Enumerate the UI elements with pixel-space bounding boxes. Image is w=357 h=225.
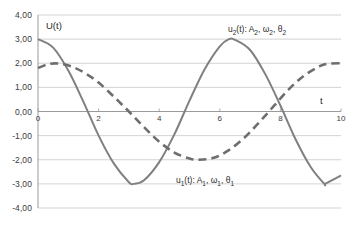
y-tick-label: 0,00 bbox=[0, 107, 32, 117]
y-tick-label: -1,00 bbox=[0, 131, 32, 141]
chart-container: 4,003,002,001,000,00-1,00-2,00-3,00-4,00… bbox=[0, 0, 357, 225]
y-tick-label: 3,00 bbox=[0, 34, 32, 44]
x-tick-label: 2 bbox=[90, 114, 108, 123]
x-axis-title: t bbox=[320, 95, 323, 106]
y-tick-label: -4,00 bbox=[0, 203, 32, 213]
series1-theta-sub: 1 bbox=[230, 180, 234, 187]
series-label-u2: u2(t): A2, ω2, θ2 bbox=[228, 24, 286, 36]
y-tick-label: 2,00 bbox=[0, 58, 32, 68]
y-tick-label: 1,00 bbox=[0, 82, 32, 92]
plot-svg bbox=[0, 0, 357, 225]
series-label-u1: u1(t): A1, ω1, θ1 bbox=[176, 175, 234, 187]
series1-of-t: (t): A bbox=[184, 175, 202, 185]
y-tick-label: -2,00 bbox=[0, 155, 32, 165]
x-tick-label: 8 bbox=[271, 114, 289, 123]
series2-of-t: (t): A bbox=[236, 24, 254, 34]
y-axis-title: U(t) bbox=[46, 20, 62, 31]
series2-theta-sub: 2 bbox=[282, 29, 286, 36]
x-tick-label: 0 bbox=[29, 114, 47, 123]
y-tick-label: 4,00 bbox=[0, 10, 32, 20]
x-tick-label: 6 bbox=[211, 114, 229, 123]
y-tick-label: -3,00 bbox=[0, 179, 32, 189]
x-tick-label: 10 bbox=[332, 114, 350, 123]
x-tick-label: 4 bbox=[150, 114, 168, 123]
